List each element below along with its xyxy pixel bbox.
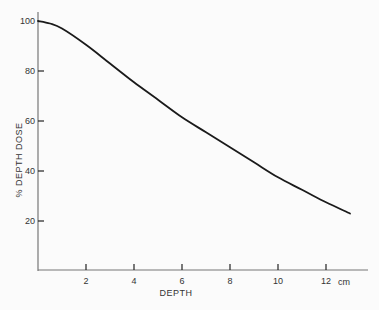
- y-tick-label: 100: [20, 16, 35, 26]
- y-tick-label: 60: [25, 116, 35, 126]
- y-axis-title: % DEPTH DOSE: [14, 122, 24, 197]
- x-tick-label: 6: [179, 276, 184, 286]
- x-axis: 24681012: [38, 264, 368, 286]
- x-axis-title: DEPTH: [159, 288, 192, 298]
- y-tick-label: 20: [25, 216, 35, 226]
- y-tick-label: 40: [25, 166, 35, 176]
- x-tick-label: 2: [83, 276, 88, 286]
- depth-dose-chart: 20406080100 24681012 % DEPTH DOSE DEPTH …: [0, 0, 379, 310]
- x-tick-label: 10: [273, 276, 283, 286]
- x-tick-label: 8: [227, 276, 232, 286]
- depth-dose-curve: [38, 21, 350, 214]
- x-tick-label: 4: [131, 276, 136, 286]
- x-tick-label: 12: [321, 276, 331, 286]
- y-tick-label: 80: [25, 66, 35, 76]
- x-axis-unit: cm: [338, 277, 350, 287]
